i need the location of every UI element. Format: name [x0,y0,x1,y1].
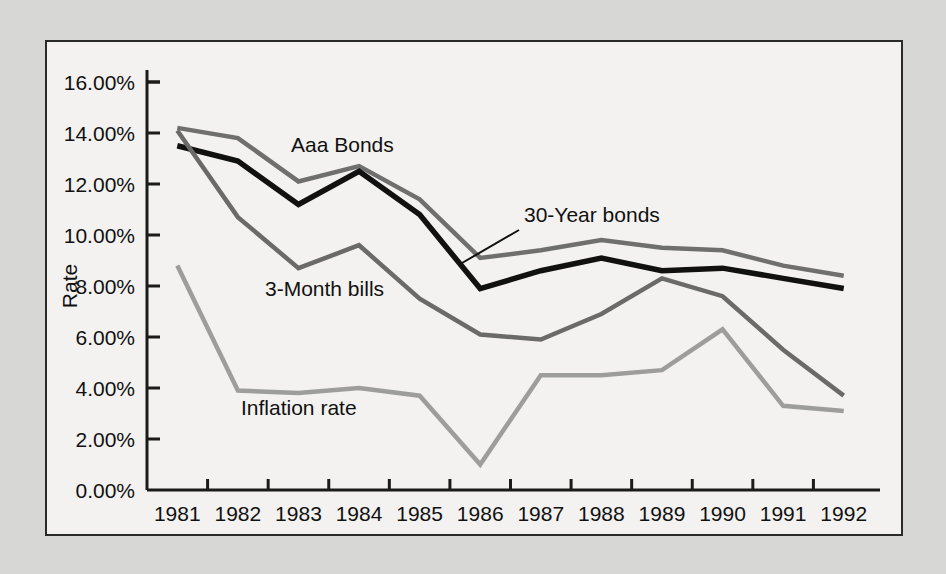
series-label-3-month-bills: 3-Month bills [265,277,384,300]
x-tick-label: 1992 [820,502,867,525]
y-tick-label: 14.00% [64,122,135,145]
x-tick-label: 1986 [457,502,504,525]
x-tick-label: 1985 [396,502,443,525]
series-label-aaa-bonds: Aaa Bonds [291,133,394,156]
x-tick-label: 1989 [639,502,686,525]
y-axis-title-text: Rate [58,264,81,308]
x-axis: 1981198219831984198519861987198819891990… [147,479,880,525]
y-tick-label: 6.00% [75,326,135,349]
y-tick-label: 0.00% [75,479,135,502]
y-tick-label: 2.00% [75,428,135,451]
x-tick-label: 1982 [215,502,262,525]
figure-frame: 0.00%2.00%4.00%6.00%8.00%10.00%12.00%14.… [45,40,903,536]
x-tick-label: 1991 [760,502,807,525]
y-axis-title: Rate [58,264,81,308]
x-tick-label: 1984 [336,502,383,525]
series-label-30-year-bonds: 30-Year bonds [524,203,660,226]
y-tick-label: 4.00% [75,377,135,400]
chart-page: 0.00%2.00%4.00%6.00%8.00%10.00%12.00%14.… [0,0,946,574]
line-chart: 0.00%2.00%4.00%6.00%8.00%10.00%12.00%14.… [47,42,901,534]
x-tick-label: 1990 [699,502,746,525]
series-line-aaa-bonds [177,128,843,276]
y-tick-label: 8.00% [75,275,135,298]
x-tick-label: 1981 [154,502,201,525]
series-label-inflation-rate: Inflation rate [241,396,357,419]
x-tick-label: 1987 [517,502,564,525]
x-tick-label: 1988 [578,502,625,525]
x-tick-label: 1983 [275,502,322,525]
y-tick-label: 12.00% [64,173,135,196]
y-tick-label: 16.00% [64,71,135,94]
y-tick-label: 10.00% [64,224,135,247]
